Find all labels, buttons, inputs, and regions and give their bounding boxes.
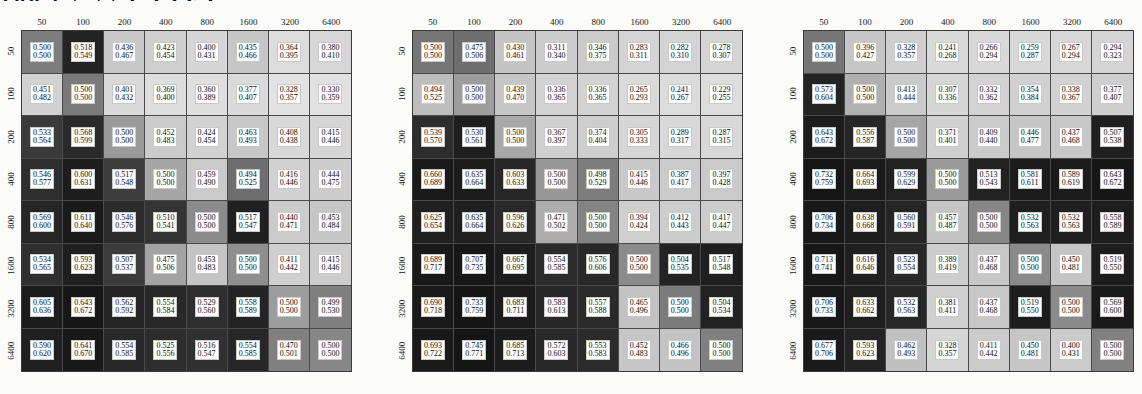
cell-value-box: 0.3870.417 <box>668 169 692 189</box>
heatmap-panel-2: 50100200400800160032006400 5010020040080… <box>391 14 751 384</box>
cell-value-box: 0.4110.442 <box>977 340 1001 360</box>
heatmap-cell: 0.6410.670 <box>63 329 104 372</box>
heatmap-cell: 0.5000.500 <box>927 159 968 202</box>
heatmap-cell: 0.5340.565 <box>22 244 63 287</box>
cell-value-bottom: 0.410 <box>321 52 339 60</box>
cell-value-bottom: 0.500 <box>198 222 216 230</box>
heatmap-cell: 0.2590.287 <box>1010 31 1051 74</box>
cell-value-bottom: 0.493 <box>897 350 915 358</box>
cell-value-box: 0.4080.438 <box>277 127 301 147</box>
cell-value-box: 0.5000.500 <box>709 340 733 360</box>
cell-value-box: 0.4500.481 <box>1018 340 1042 360</box>
heatmap-cell: 0.5250.556 <box>145 329 186 372</box>
heatmap-cell: 0.3770.407 <box>228 74 269 117</box>
cell-value-box: 0.4630.493 <box>236 127 260 147</box>
cell-value-box: 0.5000.500 <box>627 254 651 274</box>
heatmap-cell: 0.7060.734 <box>804 201 845 244</box>
cell-value-box: 0.5000.500 <box>318 340 342 360</box>
row-label-400: 400 <box>782 158 803 201</box>
cell-value-bottom: 0.484 <box>321 222 339 230</box>
column-label-50: 50 <box>21 14 62 30</box>
heatmap-cell: 0.4660.496 <box>660 329 701 372</box>
cell-value-bottom: 0.357 <box>897 52 915 60</box>
cell-value-box: 0.4360.467 <box>112 42 136 62</box>
cell-value-bottom: 0.294 <box>980 52 998 60</box>
cell-value-box: 0.5000.500 <box>421 42 445 62</box>
cell-value-box: 0.3890.419 <box>935 254 959 274</box>
heatmap-cell: 0.4150.446 <box>310 116 351 159</box>
cell-value-bottom: 0.640 <box>74 222 92 230</box>
cell-value-box: 0.5560.587 <box>853 127 877 147</box>
cell-value-bottom: 0.357 <box>938 350 956 358</box>
cell-value-box: 0.4230.454 <box>153 42 177 62</box>
cell-value-bottom: 0.759 <box>815 179 833 187</box>
heatmap-cell: 0.5540.585 <box>536 244 577 287</box>
cell-value-box: 0.6380.668 <box>853 212 877 232</box>
heatmap-cell: 0.6380.668 <box>845 201 886 244</box>
cell-value-bottom: 0.336 <box>938 94 956 102</box>
column-label-800: 800 <box>969 14 1010 30</box>
cell-value-box: 0.5190.550 <box>1100 254 1124 274</box>
heatmap-cell: 0.4160.446 <box>269 159 310 202</box>
cell-value-bottom: 0.500 <box>897 137 915 145</box>
heatmap-cell: 0.5890.619 <box>1051 159 1092 202</box>
heatmap-cell: 0.6600.689 <box>413 159 454 202</box>
heatmap-cell: 0.3940.424 <box>619 201 660 244</box>
heatmap-cell: 0.2940.323 <box>1092 31 1133 74</box>
cell-value-bottom: 0.664 <box>465 179 483 187</box>
cell-value-bottom: 0.407 <box>239 94 257 102</box>
heatmap-cell: 0.4110.442 <box>969 329 1010 372</box>
heatmap-cell: 0.6770.706 <box>804 329 845 372</box>
cell-value-box: 0.6350.664 <box>462 212 486 232</box>
heatmap-cell: 0.7130.741 <box>804 244 845 287</box>
cell-value-bottom: 0.654 <box>424 222 442 230</box>
cell-value-box: 0.4370.468 <box>977 254 1001 274</box>
column-label-200: 200 <box>104 14 145 30</box>
cell-value-bottom: 0.670 <box>74 350 92 358</box>
cell-value-box: 0.6160.646 <box>853 254 877 274</box>
cell-value-bottom: 0.481 <box>1062 264 1080 272</box>
heatmap-cell: 0.5000.500 <box>145 159 186 202</box>
row-label-1600: 1600 <box>782 244 803 287</box>
heatmap-cell: 0.4400.471 <box>269 201 310 244</box>
cell-value-bottom: 0.461 <box>506 52 524 60</box>
cell-value-box: 0.2590.287 <box>1018 42 1042 62</box>
cell-value-bottom: 0.561 <box>465 137 483 145</box>
column-label-3200: 3200 <box>1051 14 1092 30</box>
cell-value-box: 0.5070.537 <box>112 254 136 274</box>
cell-value-bottom: 0.664 <box>465 222 483 230</box>
cell-value-bottom: 0.500 <box>938 179 956 187</box>
row-label-6400: 6400 <box>0 329 21 372</box>
heatmap-cell: 0.5540.585 <box>228 329 269 372</box>
cell-value-box: 0.6830.711 <box>503 297 527 317</box>
row-label-3200: 3200 <box>0 287 21 330</box>
cell-value-box: 0.4750.506 <box>462 42 486 62</box>
cell-value-bottom: 0.401 <box>938 137 956 145</box>
cell-value-box: 0.5000.500 <box>153 169 177 189</box>
heatmap-cell: 0.5720.603 <box>536 329 577 372</box>
heatmap-cell: 0.6330.662 <box>845 286 886 329</box>
cell-value-box: 0.5530.583 <box>586 340 610 360</box>
cell-value-box: 0.4660.496 <box>668 340 692 360</box>
cell-value-box: 0.6430.672 <box>812 127 836 147</box>
cell-value-box: 0.7060.733 <box>812 297 836 317</box>
cell-value-bottom: 0.268 <box>938 52 956 60</box>
cell-value-box: 0.5540.585 <box>544 254 568 274</box>
heatmap-cell: 0.5830.613 <box>536 286 577 329</box>
cell-value-bottom: 0.500 <box>280 307 298 315</box>
cell-value-box: 0.5580.589 <box>1100 212 1124 232</box>
heatmap-cell: 0.3380.367 <box>1051 74 1092 117</box>
cell-value-box: 0.5000.500 <box>112 127 136 147</box>
heatmap-cell: 0.6900.718 <box>413 286 454 329</box>
cell-value-box: 0.4150.446 <box>627 169 651 189</box>
column-header-row-1: 50100200400800160032006400 <box>21 14 352 30</box>
cell-value-box: 0.3360.365 <box>544 84 568 104</box>
cell-value-box: 0.5000.500 <box>812 42 836 62</box>
heatmap-cell: 0.5000.500 <box>1092 329 1133 372</box>
cell-value-bottom: 0.589 <box>239 307 257 315</box>
heatmap-cell: 0.5000.500 <box>1010 244 1051 287</box>
heatmap-cell: 0.5320.563 <box>1010 201 1051 244</box>
heatmap-cell: 0.5730.604 <box>804 74 845 117</box>
heatmap-cell: 0.4240.454 <box>187 116 228 159</box>
cell-value-bottom: 0.500 <box>1021 264 1039 272</box>
